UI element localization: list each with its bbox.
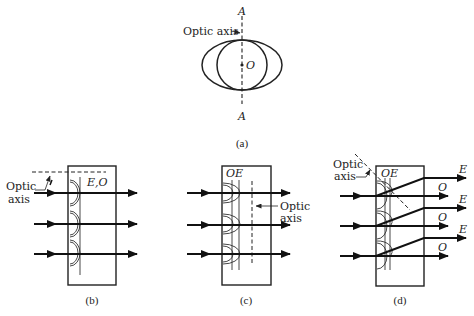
caption-b: (b) xyxy=(86,294,99,307)
ray-label-o-3: O xyxy=(438,241,447,254)
panel-b: E,O Optic axis (b) xyxy=(6,166,137,307)
caption-d: (d) xyxy=(394,294,407,307)
ray-label-o-1: O xyxy=(438,181,447,194)
axis-label-bottom: A xyxy=(237,110,246,123)
ray-label-e-1: E xyxy=(458,163,467,176)
ray-label-o-2: O xyxy=(438,211,447,224)
extraordinary-ray-d-3 xyxy=(376,238,466,256)
birefringence-diagram: A A O Optic axis (a) E,O Optic axis (b) xyxy=(0,0,474,316)
wavefront-label-b: E,O xyxy=(86,176,108,189)
wavefront-label-c: OE xyxy=(226,167,243,180)
panel-c: OE Optic axis (c) xyxy=(187,166,310,307)
origin-point xyxy=(240,63,243,66)
panel-d: E O E O E O OE Optic axis (d) xyxy=(333,154,467,307)
panel-a: A A O Optic axis (a) xyxy=(183,5,282,150)
axis-label-top: A xyxy=(237,5,246,18)
wavefront-label-d: OE xyxy=(381,167,398,180)
optic-axis-label-b-line1: Optic xyxy=(6,180,36,193)
optic-axis-pointer-d xyxy=(356,170,370,177)
optic-axis-label-c-line2: axis xyxy=(280,212,302,225)
optic-axis-line-d xyxy=(355,154,410,210)
mid-arrow-b-1 xyxy=(50,180,52,185)
caption-a: (a) xyxy=(236,137,249,150)
center-label: O xyxy=(246,59,255,72)
extraordinary-ray-d-2 xyxy=(376,208,466,226)
extraordinary-ray-d-1 xyxy=(376,178,466,196)
optic-axis-label-d-line2: axis xyxy=(334,170,356,183)
optic-axis-pointer-b xyxy=(35,176,50,190)
optic-axis-label-a: Optic axis xyxy=(183,25,239,38)
ray-label-e-2: E xyxy=(458,193,467,206)
ray-label-e-3: E xyxy=(458,223,467,236)
optic-axis-label-b-line2: axis xyxy=(8,193,30,206)
caption-c: (c) xyxy=(240,294,253,307)
wavelets-c xyxy=(223,183,240,264)
